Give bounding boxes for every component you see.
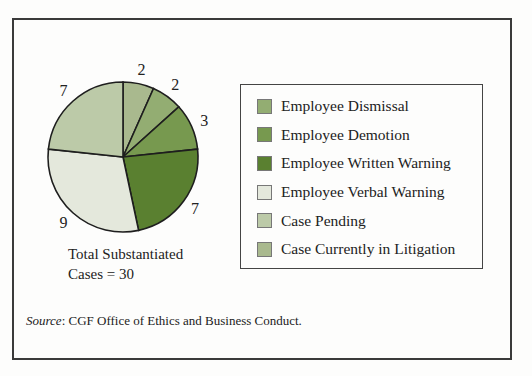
slice-value-label: 3	[200, 112, 208, 129]
source-text: : CGF Office of Ethics and Business Cond…	[62, 313, 302, 328]
slice-value-label: 7	[191, 200, 199, 217]
legend-item: Employee Verbal Warning	[257, 178, 482, 207]
total-line-2: Cases = 30	[68, 264, 183, 284]
swatch-icon	[257, 213, 272, 228]
slice-value-label: 2	[138, 61, 146, 78]
legend-item: Case Pending	[257, 206, 482, 235]
legend-item: Employee Demotion	[257, 121, 482, 150]
source-note: Source: CGF Office of Ethics and Busines…	[26, 313, 302, 329]
swatch-icon	[257, 127, 272, 142]
swatch-icon	[257, 242, 272, 257]
legend-item: Case Currently in Litigation	[257, 235, 482, 264]
total-line-1: Total Substantiated	[68, 244, 183, 264]
slice-value-label: 9	[59, 214, 67, 231]
total-label: Total Substantiated Cases = 30	[68, 244, 183, 284]
source-prefix: Source	[26, 313, 62, 328]
legend: Employee Dismissal Employee Demotion Emp…	[240, 84, 483, 269]
swatch-icon	[257, 185, 272, 200]
legend-item: Employee Dismissal	[257, 92, 482, 121]
swatch-icon	[257, 156, 272, 171]
slice-value-label: 2	[171, 76, 179, 93]
legend-item: Employee Written Warning	[257, 149, 482, 178]
slice-value-label: 7	[59, 82, 67, 99]
swatch-icon	[257, 99, 272, 114]
